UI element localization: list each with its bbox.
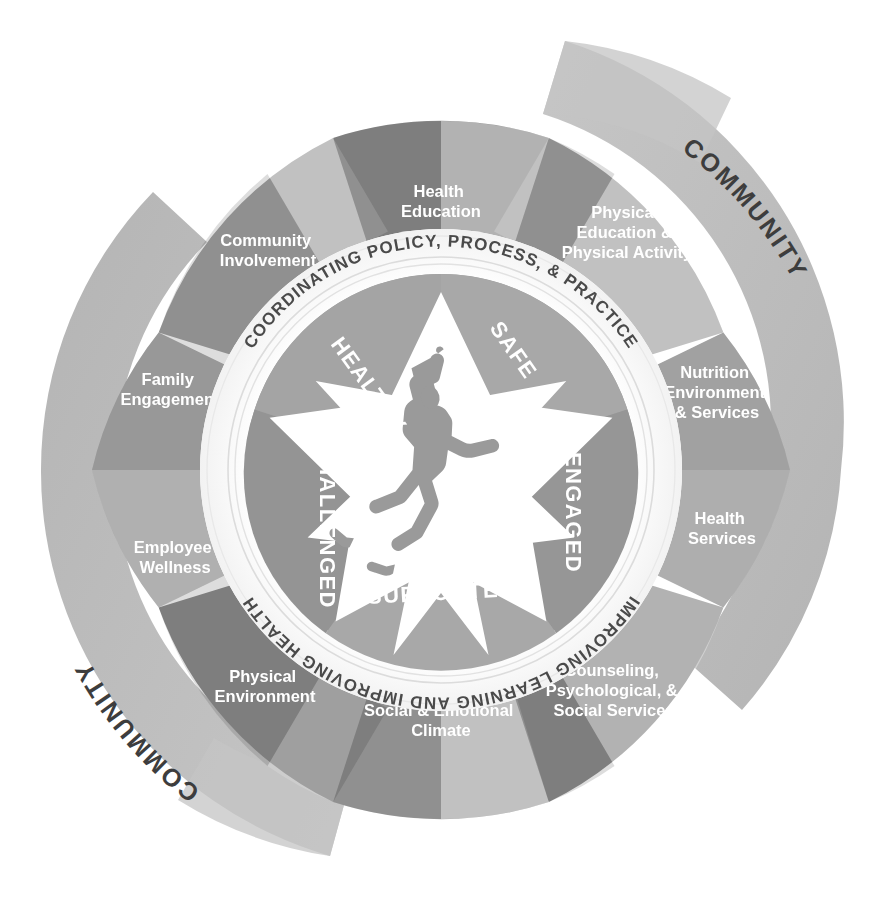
star-label-challenged: CHALLENGED xyxy=(315,442,340,609)
wscc-diagram-canvas: COMMUNITY COMMUNITY xyxy=(0,0,882,919)
wscc-model-diagram: COMMUNITY COMMUNITY xyxy=(0,0,882,919)
star-label-engaged: ENGAGED xyxy=(561,452,586,573)
